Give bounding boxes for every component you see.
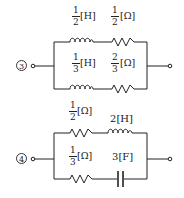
terminal-right xyxy=(168,157,172,161)
capacitor-icon xyxy=(118,171,123,187)
resistor-unit: [Ω] xyxy=(120,58,135,68)
numerator: 1 xyxy=(69,101,77,112)
numerator: 1 xyxy=(69,146,77,157)
denominator: 3 xyxy=(70,157,76,167)
numerator: 1 xyxy=(72,6,80,17)
inductor-value-fraction: 1 3 xyxy=(72,53,80,74)
capacitor-value: 3[F] xyxy=(112,152,133,162)
inductor-value: 2[H] xyxy=(110,114,133,124)
resistor-value-fraction: 1 2 xyxy=(69,101,77,122)
denominator: 2 xyxy=(112,17,118,27)
resistor-unit: [Ω] xyxy=(77,106,92,116)
inductor-icon xyxy=(70,38,93,42)
resistor-unit: [Ω] xyxy=(77,151,92,161)
resistor-icon xyxy=(112,38,134,46)
inductor-unit: [H] xyxy=(116,113,133,124)
numerator: 2 xyxy=(111,53,119,64)
resistor-unit: [Ω] xyxy=(120,11,135,21)
circuit-4-wiring xyxy=(31,133,172,179)
denominator: 2 xyxy=(70,112,76,122)
resistor-value-fraction: 1 2 xyxy=(111,6,119,27)
circuit-diagrams xyxy=(0,0,184,198)
terminal-left xyxy=(31,157,35,161)
resistor-icon xyxy=(112,85,134,93)
capacitor-unit: [F] xyxy=(118,151,133,162)
inductor-icon xyxy=(108,129,132,133)
resistor-value-fraction: 1 3 xyxy=(69,146,77,167)
resistor-value-fraction: 2 3 xyxy=(111,53,119,74)
circuit-number-3: 3 xyxy=(16,60,27,71)
inductor-icon xyxy=(70,85,93,89)
circuit-3-wiring xyxy=(31,42,172,89)
circuit-number-4: 4 xyxy=(16,153,27,164)
inductor-value-fraction: 1 2 xyxy=(72,6,80,27)
terminal-left xyxy=(31,64,35,68)
numerator: 1 xyxy=(72,53,80,64)
inductor-unit: [H] xyxy=(80,58,96,68)
terminal-right xyxy=(168,64,172,68)
inductor-unit: [H] xyxy=(80,11,96,21)
resistor-icon xyxy=(70,175,92,183)
denominator: 2 xyxy=(73,17,79,27)
resistor-icon xyxy=(70,129,92,137)
denominator: 3 xyxy=(112,64,118,74)
denominator: 3 xyxy=(73,64,79,74)
numerator: 1 xyxy=(111,6,119,17)
